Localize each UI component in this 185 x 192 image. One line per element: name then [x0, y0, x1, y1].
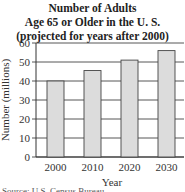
y-tick-label: 30 — [19, 94, 31, 106]
bar-chart: 01020304050602000201020202030YearNumber … — [0, 0, 185, 192]
source-note: Source: U.S. Census Bureau — [2, 186, 104, 192]
x-axis-label: Year — [102, 176, 123, 188]
bar — [84, 71, 101, 157]
x-tick-label: 2000 — [45, 161, 68, 173]
y-tick-label: 40 — [19, 75, 31, 87]
bar — [158, 51, 175, 157]
x-tick-label: 2010 — [82, 161, 105, 173]
x-tick-label: 2020 — [119, 161, 142, 173]
y-tick-label: 0 — [25, 151, 31, 163]
y-tick-label: 10 — [19, 132, 31, 144]
y-tick-label: 60 — [19, 37, 31, 49]
y-tick-label: 50 — [19, 56, 31, 68]
x-tick-label: 2030 — [156, 161, 179, 173]
bar — [121, 60, 138, 157]
y-tick-label: 20 — [19, 113, 31, 125]
y-axis-label: Number (millions) — [0, 59, 12, 142]
bar — [47, 81, 64, 157]
